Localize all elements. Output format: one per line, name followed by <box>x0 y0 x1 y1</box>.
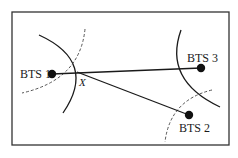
bts3-label: BTS 3 <box>187 51 218 65</box>
bts2-node <box>185 111 193 119</box>
bts2-label: BTS 2 <box>179 121 210 135</box>
edge-x-bts2 <box>77 72 189 115</box>
intersection-label: X <box>78 76 87 88</box>
bts3-node <box>197 64 205 72</box>
bts1-label: BTS 1 <box>20 67 51 81</box>
trilateration-diagram: BTS 1 BTS 3 BTS 2 X <box>0 0 238 158</box>
